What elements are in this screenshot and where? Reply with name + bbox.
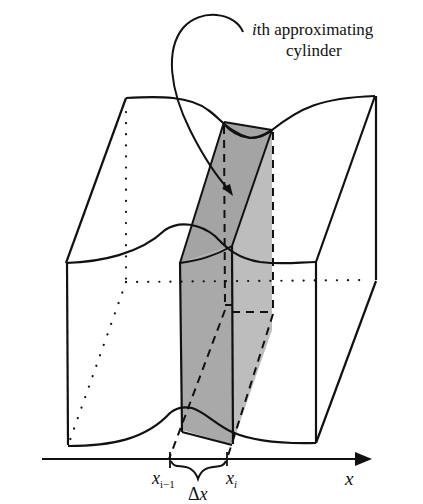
delta-x-brace [171,461,226,479]
right-top-edge [316,96,375,262]
axis-arrowhead-icon [355,452,372,466]
approximating-cylinder-diagram: ith approximating cylinder xi−1 Δx xi x [0,0,423,504]
delta-x-label: Δx [188,484,208,504]
x-i-label: xi [225,468,237,490]
cylinder-label-line2: cylinder [286,41,342,60]
x-i-minus-1-label: xi−1 [151,468,175,490]
x-axis-variable-label: x [344,468,354,489]
cylinder-label: ith approximating [252,20,374,39]
front-left-edge [67,263,68,445]
right-bottom-edge [316,281,376,443]
left-top-edge [66,98,126,263]
x-axis [42,452,372,479]
